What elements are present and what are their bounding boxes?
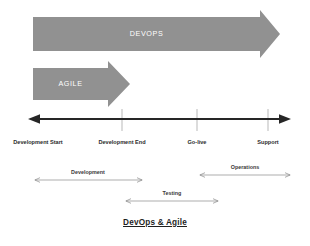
agile-arrow-label: AGILE <box>33 80 108 87</box>
phase-label-testing: Testing <box>127 191 217 196</box>
figure-caption: DevOps & Agile <box>0 219 310 227</box>
devops-agile-diagram: DEVOPS AGILE Development Start Developme… <box>0 0 310 246</box>
phase-span-arrows <box>35 175 290 201</box>
phase-label-operations: Operations <box>200 165 290 170</box>
milestone-label-support: Support <box>228 140 308 146</box>
milestone-label-go-live: Go-live <box>157 140 237 146</box>
axis-arrow-right <box>279 114 291 124</box>
devops-arrow-label: DEVOPS <box>33 30 260 37</box>
timeline-axis <box>28 114 291 124</box>
phase-label-development: Development <box>38 170 138 175</box>
axis-arrow-left <box>28 114 40 124</box>
